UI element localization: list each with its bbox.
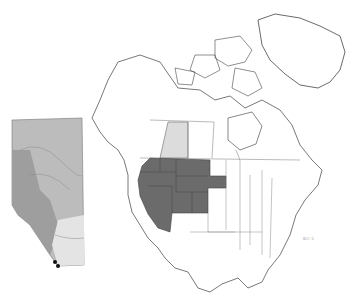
alberta-inset	[12, 118, 84, 268]
occurrence-dot	[56, 264, 60, 268]
occurrence-dot	[53, 260, 57, 264]
distribution-map: ID#: 5	[0, 0, 356, 299]
arctic-islands	[175, 36, 262, 96]
corner-label: ID#: 5	[303, 236, 314, 241]
greenland	[258, 14, 345, 88]
